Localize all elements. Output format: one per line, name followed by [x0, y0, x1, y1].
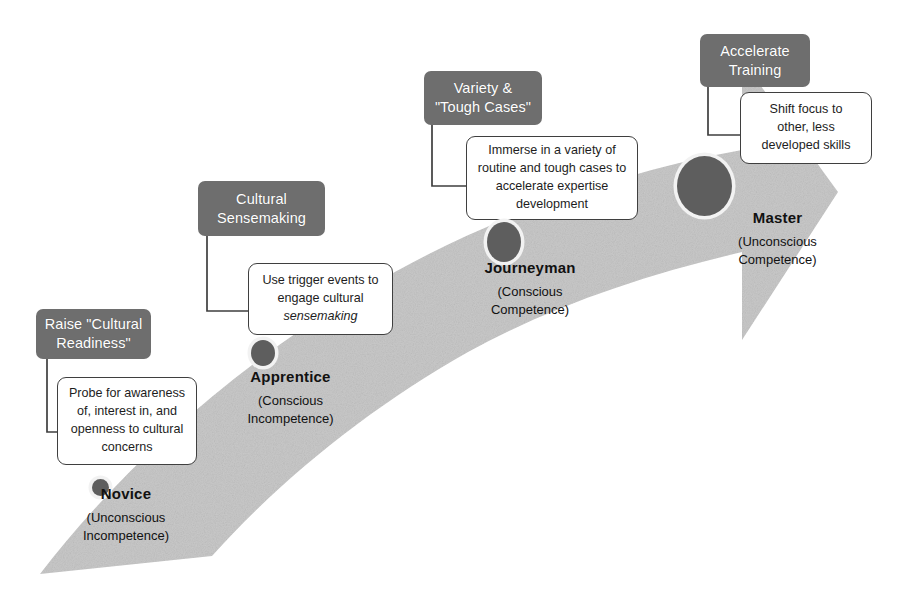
node-dot-master[interactable] — [677, 156, 732, 216]
stage-state-master-line1: (Unconscious — [690, 233, 865, 251]
action-label-apprentice-line1: Cultural — [236, 191, 287, 207]
stage-state-journeyman-line1: (Conscious — [435, 283, 625, 301]
action-label-apprentice-text: Cultural Sensemaking — [217, 190, 306, 227]
callout-journeyman-text: Immerse in a variety of routine and toug… — [478, 142, 626, 214]
action-label-novice-line2: Readiness" — [56, 335, 131, 351]
action-label-journeyman[interactable]: Variety & "Tough Cases" — [424, 71, 542, 125]
callout-journeyman-line4: development — [516, 197, 588, 211]
callout-journeyman-line1: Immerse in a variety of — [488, 143, 615, 157]
stage-state-apprentice-line2: Incompetence) — [198, 410, 383, 428]
callout-master-line1: Shift focus to — [770, 102, 843, 116]
callout-journeyman[interactable]: Immerse in a variety of routine and toug… — [466, 136, 638, 220]
callout-novice-text: Probe for awareness of, interest in, and… — [69, 385, 185, 457]
stage-state-novice: (Unconscious Incompetence) — [46, 509, 206, 544]
action-label-novice-text: Raise "Cultural Readiness" — [45, 315, 143, 352]
callout-apprentice-text: Use trigger events to engage cultural se… — [262, 272, 378, 326]
action-label-master-line1: Accelerate — [720, 43, 790, 59]
stage-master: Master (Unconscious Competence) — [690, 209, 865, 268]
callout-novice-line1: Probe for awareness — [69, 386, 185, 400]
callout-master[interactable]: Shift focus to other, less developed ski… — [740, 92, 872, 164]
stage-journeyman: Journeyman (Conscious Competence) — [435, 259, 625, 318]
callout-novice-line3: openness to cultural — [71, 422, 184, 436]
action-label-master-line2: Training — [729, 62, 782, 78]
action-label-journeyman-text: Variety & "Tough Cases" — [435, 79, 531, 116]
diagram-canvas: Raise "Cultural Readiness" Probe for awa… — [0, 0, 910, 609]
stage-state-apprentice: (Conscious Incompetence) — [198, 392, 383, 427]
action-label-journeyman-line2: "Tough Cases" — [435, 99, 531, 115]
callout-apprentice-line2: engage cultural — [277, 291, 363, 305]
stage-novice: Novice (Unconscious Incompetence) — [46, 485, 206, 544]
callout-apprentice-line3: sensemaking — [283, 309, 357, 323]
action-label-apprentice[interactable]: Cultural Sensemaking — [198, 181, 325, 236]
callout-journeyman-line2: routine and tough cases to — [478, 161, 626, 175]
callout-apprentice-line1: Use trigger events to — [262, 273, 378, 287]
action-label-novice[interactable]: Raise "Cultural Readiness" — [36, 309, 151, 359]
action-label-master-text: Accelerate Training — [720, 42, 790, 79]
node-dot-journeyman[interactable] — [487, 222, 521, 262]
stage-state-journeyman-line2: Competence) — [435, 301, 625, 319]
action-label-master[interactable]: Accelerate Training — [700, 34, 810, 87]
stage-name-novice: Novice — [46, 485, 206, 502]
stage-apprentice: Apprentice (Conscious Incompetence) — [198, 368, 383, 427]
stage-state-master-line2: Competence) — [690, 251, 865, 269]
stage-state-master: (Unconscious Competence) — [690, 233, 865, 268]
connector-apprentice — [207, 236, 250, 311]
callout-novice-line4: concerns — [101, 440, 152, 454]
node-dot-apprentice[interactable] — [251, 340, 275, 366]
callout-master-line2: other, less — [777, 120, 834, 134]
action-label-journeyman-line1: Variety & — [454, 80, 513, 96]
connector-master — [708, 87, 742, 135]
stage-state-apprentice-line1: (Conscious — [198, 392, 383, 410]
action-label-apprentice-line2: Sensemaking — [217, 210, 306, 226]
stage-state-novice-line1: (Unconscious — [46, 509, 206, 527]
stage-name-journeyman: Journeyman — [435, 259, 625, 276]
action-label-novice-line1: Raise "Cultural — [45, 316, 143, 332]
callout-master-line3: developed skills — [762, 138, 851, 152]
callout-novice-line2: of, interest in, and — [77, 404, 177, 418]
stage-state-novice-line2: Incompetence) — [46, 527, 206, 545]
callout-apprentice[interactable]: Use trigger events to engage cultural se… — [248, 263, 393, 335]
stage-name-apprentice: Apprentice — [198, 368, 383, 385]
stage-state-journeyman: (Conscious Competence) — [435, 283, 625, 318]
stage-name-master: Master — [690, 209, 865, 226]
callout-novice[interactable]: Probe for awareness of, interest in, and… — [57, 377, 197, 465]
connector-journeyman — [432, 125, 468, 186]
callout-journeyman-line3: accelerate expertise — [496, 179, 609, 193]
callout-master-text: Shift focus to other, less developed ski… — [762, 101, 851, 155]
